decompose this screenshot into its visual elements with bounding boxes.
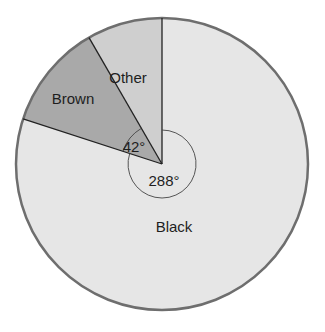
label-brown: Brown [52, 90, 95, 107]
pie-chart: Other Brown 42° 288° Black [0, 0, 325, 332]
label-other: Other [109, 69, 147, 86]
label-brown-angle: 42° [123, 138, 146, 155]
label-black-angle: 288° [148, 172, 179, 189]
label-black: Black [156, 218, 193, 235]
